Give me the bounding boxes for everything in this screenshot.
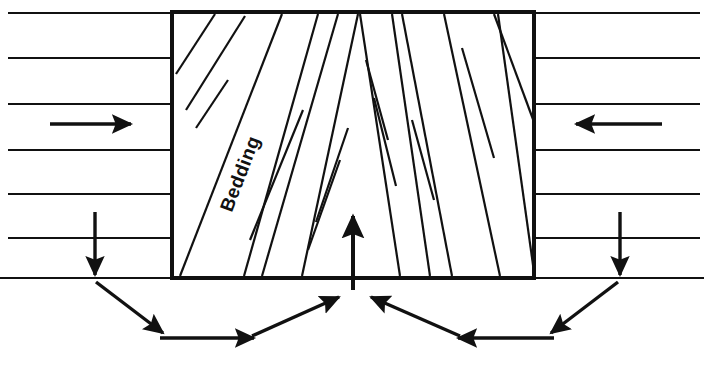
bedding-trace	[262, 14, 338, 276]
geology-diagram-figure: Bedding	[0, 0, 704, 370]
left-inner-diagonal-arrow	[252, 297, 339, 336]
bedding-trace	[402, 14, 452, 276]
bedding-fan-left	[176, 14, 358, 276]
bedding-trace	[498, 14, 534, 272]
bedding-trace	[176, 14, 215, 74]
strata-left-field	[0, 13, 172, 278]
bedding-trace	[186, 16, 245, 110]
bedding-label: Bedding	[216, 133, 264, 215]
bedding-trace	[392, 14, 430, 276]
bedding-trace	[462, 48, 494, 158]
bedding-trace	[302, 14, 358, 276]
left-outer-diagonal-arrow	[96, 282, 163, 333]
bedding-trace	[180, 14, 282, 276]
bedding-fan-right	[360, 14, 534, 276]
right-outer-diagonal-arrow	[551, 282, 618, 333]
bedding-trace	[444, 14, 500, 276]
bedding-trace	[360, 14, 400, 276]
bedding-trace	[250, 110, 303, 240]
convergent-lower-arrows-left	[96, 282, 339, 338]
convergent-lower-arrows-right	[371, 282, 618, 338]
diagram-canvas: Bedding	[0, 0, 704, 370]
right-inner-diagonal-arrow	[371, 297, 460, 336]
bedding-trace	[316, 128, 348, 222]
